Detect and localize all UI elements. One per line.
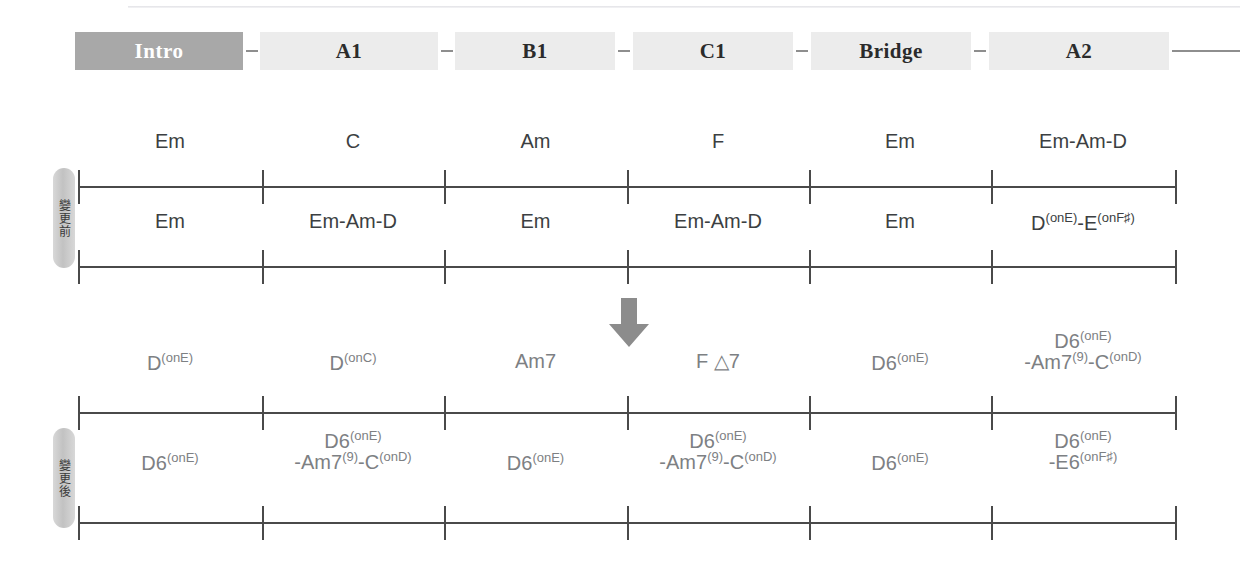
page-edge-line (128, 6, 1240, 8)
chord-extension: (onE) (167, 450, 199, 465)
chord-line-1: F (712, 130, 724, 152)
chord-root: -Am7 (1024, 351, 1072, 373)
section-box-b1[interactable]: B1 (455, 32, 615, 70)
chord-line-1: Em-Am-D (1039, 130, 1127, 152)
barline-1 (78, 506, 80, 540)
barline-5 (809, 506, 811, 540)
chord-root: -E6 (1049, 451, 1080, 473)
section-connector-2 (441, 50, 453, 52)
section-box-intro[interactable]: Intro (75, 32, 243, 70)
chord-root: F (712, 130, 724, 152)
barline-4 (627, 250, 629, 284)
chord-root: D6 (507, 452, 533, 474)
chord-label-before-row-2-m3: Em (444, 211, 627, 233)
downward-transform-arrow (608, 298, 650, 348)
chord-root: D (147, 352, 161, 374)
chord-root: -Am7 (294, 451, 342, 473)
chord-label-after-row-2-m2: D6(onE)-Am7(9)-C(onD) (262, 429, 444, 474)
chord-label-before-row-1-m6: Em-Am-D (991, 131, 1175, 153)
chord-line-2: -Am7(9)-C(onD) (627, 450, 809, 473)
chord-root: Em (155, 210, 185, 232)
barline-4 (627, 506, 629, 540)
chord-root: D6 (141, 452, 167, 474)
barline-5 (809, 250, 811, 284)
barline-7 (1175, 250, 1177, 284)
section-connector-6 (1172, 50, 1240, 52)
section-connector-3 (618, 50, 630, 52)
chord-root: Em (885, 210, 915, 232)
chord-root: Em (521, 210, 551, 232)
chord-root: -C (1088, 351, 1109, 373)
chord-extension: (onE) (1080, 428, 1112, 443)
barline-6 (991, 506, 993, 540)
barline-7 (1175, 506, 1177, 540)
chord-line-1: Am (521, 130, 551, 152)
chord-label-after-row-1-m2: D(onC) (262, 351, 444, 374)
chord-root: D6 (1054, 430, 1080, 452)
chord-extension: (onE) (1046, 210, 1078, 225)
section-box-a2[interactable]: A2 (989, 32, 1169, 70)
chord-root: -C (358, 451, 379, 473)
barline-4 (627, 170, 629, 204)
chord-extension: (onE) (897, 350, 929, 365)
chord-line-1: D(onE) (147, 352, 193, 374)
chord-line-2: -Am7(9)-C(onD) (262, 450, 444, 473)
chord-label-after-row-2-m4: D6(onE)-Am7(9)-C(onD) (627, 429, 809, 474)
chord-line-1: D(onE)-E(onF♯) (1031, 212, 1135, 234)
chord-root: D (330, 352, 344, 374)
chord-label-before-row-1-m4: F (627, 131, 809, 153)
chord-extension: (onF♯) (1097, 210, 1135, 225)
chord-root: -Am7 (659, 451, 707, 473)
chord-root: Am7 (515, 350, 556, 372)
chord-line-1: D6(onE) (507, 452, 564, 474)
chord-root: C (346, 130, 360, 152)
side-label-after: 變更後 (53, 428, 75, 528)
chord-label-before-row-2-m4: Em-Am-D (627, 211, 809, 233)
chord-extension: (onD) (744, 449, 777, 464)
chord-extension: (9) (1072, 349, 1088, 364)
barline-7 (1175, 396, 1177, 430)
chord-extension: (onC) (344, 350, 377, 365)
chord-label-after-row-1-m4: F △7 (627, 351, 809, 373)
section-connector-5 (974, 50, 986, 52)
chord-extension: (onD) (1109, 349, 1142, 364)
chord-line-1: D6(onE) (141, 452, 198, 474)
chord-label-before-row-1-m1: Em (78, 131, 262, 153)
chord-line-1: C (346, 130, 360, 152)
chord-label-after-row-2-m5: D6(onE) (809, 451, 991, 474)
chord-label-after-row-2-m1: D6(onE) (78, 451, 262, 474)
section-box-c1[interactable]: C1 (633, 32, 793, 70)
barline-7 (1175, 170, 1177, 204)
barline-2 (262, 170, 264, 204)
chord-root: D6 (871, 352, 897, 374)
section-connector-1 (246, 50, 258, 52)
chord-extension: (onE) (1080, 328, 1112, 343)
chord-line-1: Em (885, 130, 915, 152)
barline-3 (444, 250, 446, 284)
chord-label-before-row-1-m5: Em (809, 131, 991, 153)
chord-label-after-row-1-m6: D6(onE)-Am7(9)-C(onD) (991, 329, 1175, 374)
section-connector-4 (796, 50, 808, 52)
barline-3 (444, 506, 446, 540)
chord-label-before-row-1-m2: C (262, 131, 444, 153)
chord-root: Em-Am-D (309, 210, 397, 232)
chord-line-1: Em-Am-D (309, 210, 397, 232)
barline-6 (991, 250, 993, 284)
barline-6 (991, 170, 993, 204)
section-box-a1[interactable]: A1 (260, 32, 438, 70)
chord-extension: (onE) (532, 450, 564, 465)
chord-label-before-row-1-m3: Am (444, 131, 627, 153)
chord-label-after-row-1-m1: D(onE) (78, 351, 262, 374)
chord-root: -E (1077, 212, 1097, 234)
section-box-bridge[interactable]: Bridge (811, 32, 971, 70)
chord-line-1: Am7 (515, 350, 556, 372)
barline-2 (262, 506, 264, 540)
chord-line-1: Em-Am-D (674, 210, 762, 232)
chord-line-1: Em (885, 210, 915, 232)
barline-5 (809, 396, 811, 430)
chord-line-2: -E6(onF♯) (991, 450, 1175, 473)
barline-4 (627, 396, 629, 430)
chord-line-1: Em (155, 210, 185, 232)
chord-extension: (9) (342, 449, 358, 464)
chord-line-2: -Am7(9)-C(onD) (991, 350, 1175, 373)
